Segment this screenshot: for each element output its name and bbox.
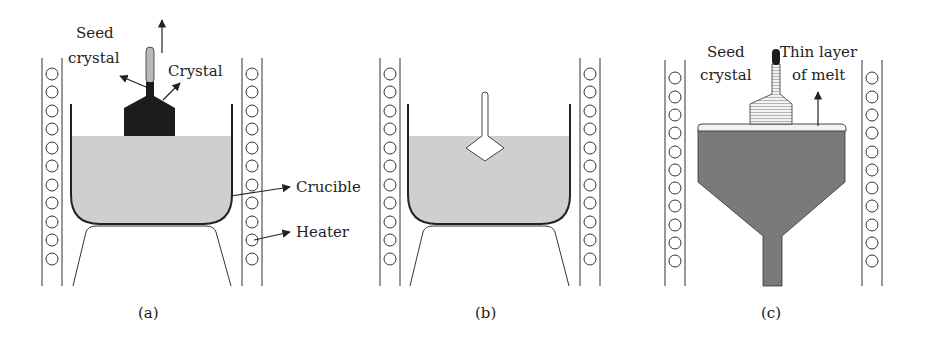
label-crystal-a: Crystal	[168, 62, 223, 80]
caption-b: (b)	[475, 304, 496, 322]
label-crucible: Crucible	[296, 178, 361, 196]
label-thin-layer-2: of melt	[792, 66, 845, 84]
label-seed-a-1: Seed	[76, 24, 114, 42]
crystal-growth-diagram: Seed crystal Crystal Crucible Heater (a)	[0, 0, 927, 343]
heater-right-b	[580, 58, 600, 286]
seed-shoulder-c	[750, 64, 792, 124]
panel-c: Seed crystal Thin layer of melt (c)	[665, 43, 882, 322]
crucible-label-arrow	[231, 187, 290, 196]
label-seed-c-2: crystal	[700, 66, 752, 84]
label-thin-layer-1: Thin layer	[780, 43, 858, 61]
heater-left-b	[380, 58, 400, 286]
panel-b: (b)	[380, 58, 600, 322]
heater-left-c	[665, 60, 685, 286]
caption-c: (c)	[761, 304, 781, 322]
crystal-label-arrow-a	[163, 83, 180, 100]
label-seed-c-1: Seed	[707, 43, 745, 61]
label-heater: Heater	[296, 223, 350, 241]
pedestal-b	[410, 226, 569, 286]
thin-melt-layer	[698, 124, 846, 131]
heater-right-a	[242, 58, 262, 286]
heater-left-a	[42, 58, 62, 286]
pedestal-a	[73, 226, 231, 286]
heater-label-arrow	[254, 232, 290, 240]
heater-right-c	[862, 60, 882, 286]
seed-rod-a	[146, 47, 154, 83]
crystal-a	[124, 82, 175, 136]
seed-tip-c	[772, 49, 780, 65]
melt-a	[71, 136, 232, 224]
crystal-c	[698, 130, 845, 286]
seed-label-arrow-a	[120, 76, 146, 87]
label-seed-a-2: crystal	[68, 49, 120, 67]
caption-a: (a)	[138, 304, 159, 322]
crystal-b	[466, 92, 504, 161]
panel-a: Seed crystal Crystal Crucible Heater (a)	[42, 20, 361, 322]
